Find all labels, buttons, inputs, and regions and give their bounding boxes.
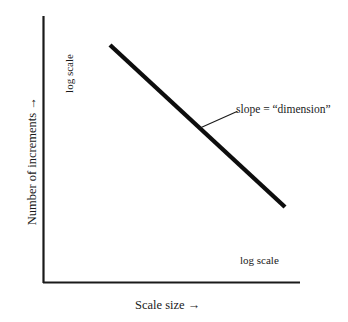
slope-annotation-label: slope = “dimension” bbox=[236, 104, 331, 116]
figure-canvas: Number of increments → log scale log sca… bbox=[0, 0, 348, 322]
log-log-plot-graphic bbox=[0, 0, 348, 322]
y-axis-title: Number of increments → bbox=[26, 81, 39, 241]
x-axis-title: Scale size → bbox=[135, 299, 200, 312]
y-axis-scale-note: log scale bbox=[64, 44, 75, 104]
x-axis-scale-note: log scale bbox=[240, 255, 279, 266]
data-line-power-law bbox=[110, 45, 285, 207]
annotation-leader-line bbox=[200, 112, 237, 129]
